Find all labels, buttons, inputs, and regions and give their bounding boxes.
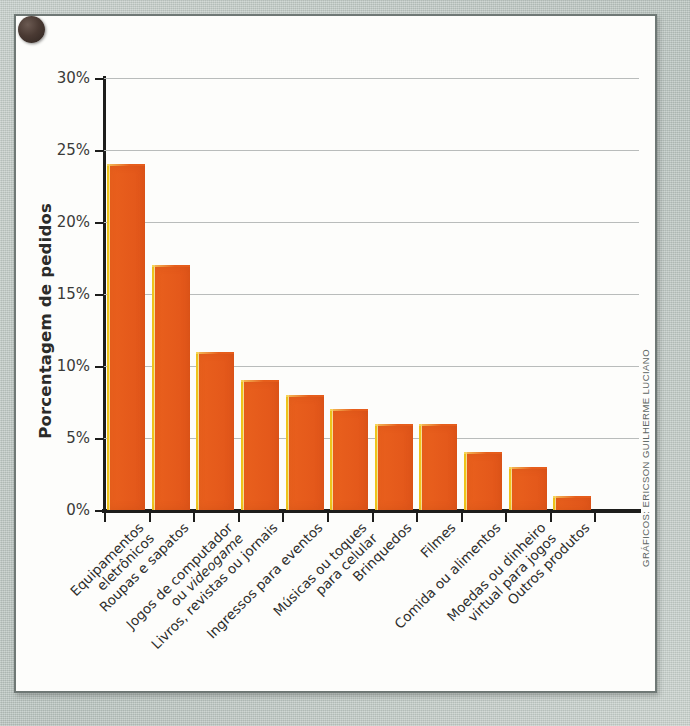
x-axis-label: Filmes — [418, 520, 459, 561]
bar — [330, 409, 368, 510]
bar — [196, 352, 234, 510]
y-axis-tick — [95, 510, 104, 512]
bar — [553, 496, 591, 510]
bar — [241, 380, 279, 510]
bar — [419, 424, 457, 510]
y-axis-tick-label: 15% — [57, 285, 90, 303]
bar — [152, 265, 190, 510]
y-axis-title-text: Porcentagem de pedidos — [36, 203, 55, 439]
gridline — [104, 150, 639, 151]
gridline — [104, 222, 639, 223]
y-axis-tick-label: 10% — [57, 357, 90, 375]
y-axis-title: Porcentagem de pedidos — [34, 186, 56, 456]
bar — [286, 395, 324, 510]
chart-card: Porcentagem de pedidos 0%5%10%15%20%25%3… — [14, 14, 657, 693]
bar — [107, 164, 145, 510]
bar — [509, 467, 547, 510]
bar — [464, 452, 502, 510]
y-axis-tick — [95, 78, 104, 80]
y-axis-tick — [95, 222, 104, 224]
pushpin-icon — [18, 16, 45, 43]
credit-text: GRÁFICOS: ERICSON GUILHERME LUCIANO — [640, 349, 651, 567]
y-axis-tick-label: 20% — [57, 213, 90, 231]
y-axis-tick-label: 30% — [57, 69, 90, 87]
gridline — [104, 78, 639, 79]
y-axis-line — [103, 76, 106, 510]
y-axis-tick-label: 0% — [66, 501, 90, 519]
y-axis-tick — [95, 294, 104, 296]
credit-line: GRÁFICOS: ERICSON GUILHERME LUCIANO — [637, 349, 653, 679]
plot-area: 0%5%10%15%20%25%30% — [104, 78, 639, 510]
bar — [375, 424, 413, 510]
x-axis-labels: EquipamentoseletrônicosRoupas e sapatosJ… — [104, 516, 664, 686]
y-axis-tick — [95, 366, 104, 368]
y-axis-tick — [95, 150, 104, 152]
y-axis-tick-label: 5% — [66, 429, 90, 447]
y-axis-tick — [95, 438, 104, 440]
y-axis-tick-label: 25% — [57, 141, 90, 159]
